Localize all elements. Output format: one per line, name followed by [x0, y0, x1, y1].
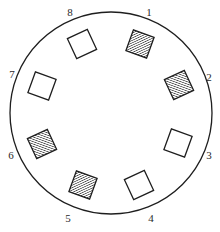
position-label-1: 1 [146, 6, 152, 18]
position-label-5: 5 [65, 212, 71, 224]
circular-position-diagram: 12345678 [0, 0, 220, 232]
position-label-2: 2 [206, 71, 212, 83]
position-label-3: 3 [206, 149, 212, 161]
hatched-square-1 [126, 30, 154, 58]
hatched-square-6 [27, 129, 56, 158]
outer-circle [10, 12, 212, 214]
empty-square-4 [124, 170, 153, 199]
position-label-7: 7 [9, 68, 15, 80]
hatched-square-5 [69, 171, 97, 199]
position-label-6: 6 [8, 149, 14, 161]
position-labels: 12345678 [8, 6, 212, 224]
position-label-4: 4 [148, 212, 154, 224]
empty-square-3 [164, 129, 192, 157]
empty-square-8 [67, 29, 96, 58]
hatched-square-2 [164, 70, 193, 99]
squares-group [27, 29, 193, 199]
empty-square-7 [28, 72, 56, 100]
position-label-8: 8 [67, 6, 73, 18]
